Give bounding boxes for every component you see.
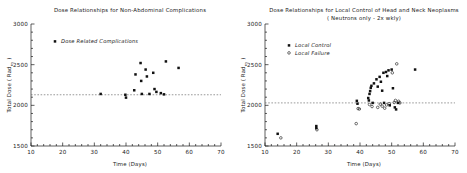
data-point bbox=[395, 108, 398, 111]
scatter-plot-non-abdominal: Dose Relationships for Non-Abdominal Com… bbox=[0, 0, 233, 173]
data-point bbox=[389, 104, 392, 107]
data-point bbox=[140, 80, 143, 83]
data-point bbox=[370, 85, 373, 88]
data-point bbox=[368, 93, 371, 96]
x-tick-label: 70 bbox=[217, 149, 225, 155]
data-point bbox=[315, 127, 318, 129]
data-point bbox=[367, 97, 370, 100]
data-point bbox=[165, 60, 168, 63]
data-point bbox=[133, 89, 136, 92]
legend-label: Local Control bbox=[295, 42, 332, 48]
data-point bbox=[148, 93, 151, 96]
data-point bbox=[124, 94, 127, 97]
data-point bbox=[139, 62, 142, 65]
x-tick-label: 70 bbox=[451, 149, 459, 155]
y-tick-label: 3000 bbox=[247, 21, 262, 27]
data-point bbox=[414, 68, 417, 71]
chart-title: Dose Relationships for Local Control of … bbox=[269, 7, 459, 14]
y-axis-label-main: Total Dose ( Rad bbox=[240, 66, 246, 113]
data-point bbox=[177, 67, 180, 70]
data-point bbox=[368, 99, 371, 102]
data-point bbox=[380, 80, 383, 83]
data-point bbox=[376, 106, 379, 109]
chart-panel-right: Dose Relationships for Local Control of … bbox=[234, 0, 467, 173]
figure-sheet: Dose Relationships for Non-Abdominal Com… bbox=[0, 0, 467, 173]
x-tick-label: 40 bbox=[356, 149, 364, 155]
x-tick-label: 60 bbox=[420, 149, 428, 155]
y-tick-label: 2000 bbox=[13, 102, 28, 108]
data-point bbox=[371, 102, 374, 105]
x-tick-label: 10 bbox=[27, 149, 35, 155]
data-point bbox=[376, 85, 379, 88]
data-point bbox=[141, 93, 144, 96]
series-dose-related-complications bbox=[99, 60, 179, 99]
legend-entry: Local Failure bbox=[288, 50, 330, 56]
x-tick-label: 10 bbox=[261, 149, 269, 155]
x-tick-label: 50 bbox=[388, 149, 396, 155]
chart-subtitle: ( Neutrons only - 2x wkly) bbox=[327, 15, 401, 22]
data-point bbox=[153, 88, 156, 91]
chart-title: Dose Relationships for Non-Abdominal Com… bbox=[54, 7, 206, 14]
y-tick-label: 1500 bbox=[13, 143, 28, 149]
data-point bbox=[375, 78, 378, 81]
data-point bbox=[395, 63, 398, 66]
data-points-group bbox=[99, 60, 179, 99]
data-point bbox=[382, 72, 385, 75]
data-point bbox=[369, 90, 372, 93]
data-point bbox=[280, 137, 283, 140]
x-tick-label: 20 bbox=[293, 149, 301, 155]
legend-entry: Local Control bbox=[288, 42, 332, 48]
data-point bbox=[134, 73, 137, 76]
data-point bbox=[356, 102, 359, 105]
legend-marker-open-circle bbox=[288, 52, 291, 55]
x-axis-label: Time (Days) bbox=[346, 161, 381, 168]
data-point bbox=[355, 122, 358, 125]
x-tick-label: 30 bbox=[91, 149, 99, 155]
y-tick-label: 3000 bbox=[13, 21, 28, 27]
data-point bbox=[155, 91, 158, 94]
y-tick-label: 1500 bbox=[247, 143, 262, 149]
data-point bbox=[146, 75, 149, 78]
data-point bbox=[152, 72, 155, 75]
data-point bbox=[381, 105, 384, 108]
data-point bbox=[160, 92, 163, 95]
x-tick-label: 20 bbox=[59, 149, 67, 155]
data-point bbox=[385, 104, 388, 107]
axis-lines bbox=[265, 24, 455, 146]
data-point bbox=[385, 71, 388, 74]
y-tick-label: 2000 bbox=[247, 102, 262, 108]
legend-label: Dose Related Complications bbox=[61, 38, 138, 45]
legend-marker-filled-square bbox=[54, 40, 57, 43]
x-axis-label: Time (Days) bbox=[112, 161, 147, 168]
data-point bbox=[125, 96, 128, 99]
x-tick-label: 50 bbox=[154, 149, 162, 155]
x-tick-label: 60 bbox=[186, 149, 194, 155]
chart-panel-left: Dose Relationships for Non-Abdominal Com… bbox=[0, 0, 233, 173]
data-point bbox=[383, 107, 386, 110]
x-tick-label: 40 bbox=[122, 149, 130, 155]
data-point bbox=[144, 68, 147, 71]
y-tick-label: 2500 bbox=[13, 62, 28, 68]
data-point bbox=[371, 105, 374, 108]
data-point bbox=[394, 99, 397, 102]
y-tick-label: 2500 bbox=[247, 62, 262, 68]
data-point bbox=[391, 72, 394, 75]
data-points-group bbox=[276, 63, 416, 140]
data-point bbox=[381, 89, 384, 92]
data-point bbox=[390, 68, 393, 71]
data-point bbox=[356, 100, 359, 103]
data-point bbox=[276, 133, 279, 136]
data-point bbox=[392, 87, 395, 90]
x-tick-label: 30 bbox=[325, 149, 333, 155]
data-point bbox=[386, 75, 389, 78]
data-point bbox=[378, 76, 381, 79]
y-axis-label-tail: ) bbox=[240, 57, 246, 61]
legend-entry: Dose Related Complications bbox=[54, 38, 139, 45]
data-point bbox=[368, 103, 371, 106]
data-point bbox=[383, 102, 386, 105]
legend-label: Local Failure bbox=[295, 50, 330, 56]
scatter-plot-head-neck: Dose Relationships for Local Control of … bbox=[234, 0, 467, 173]
data-point bbox=[99, 93, 102, 96]
legend-marker-filled-square bbox=[288, 44, 291, 47]
data-point bbox=[387, 69, 390, 72]
